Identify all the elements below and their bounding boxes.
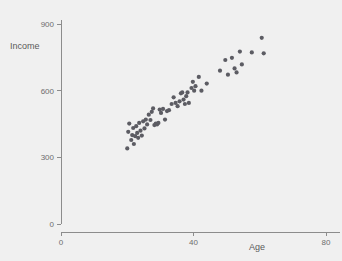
plot-canvas: 0300600900 04080 Income Age xyxy=(0,0,342,261)
x-axis-title: Age xyxy=(249,242,265,252)
data-point xyxy=(176,104,180,108)
data-point xyxy=(151,106,155,110)
data-point xyxy=(232,66,236,70)
x-tick-label: 80 xyxy=(322,238,331,247)
data-point xyxy=(125,146,129,150)
data-point xyxy=(126,130,130,134)
data-point xyxy=(226,73,230,77)
data-point xyxy=(127,121,131,125)
x-tick-label: 0 xyxy=(59,238,64,247)
y-axis-title: Income xyxy=(10,41,40,51)
x-axis: 04080 xyxy=(59,232,340,247)
data-point xyxy=(170,102,174,106)
data-point xyxy=(260,36,264,40)
data-point xyxy=(161,107,165,111)
data-point xyxy=(172,95,176,99)
y-tick-label: 300 xyxy=(41,153,55,162)
data-point xyxy=(129,138,133,142)
data-points-layer xyxy=(125,36,266,151)
data-point xyxy=(156,121,160,125)
data-point xyxy=(132,142,136,146)
data-point xyxy=(148,118,152,122)
data-point xyxy=(199,89,203,93)
data-point xyxy=(262,51,266,55)
data-point xyxy=(183,102,187,106)
y-tick-label: 900 xyxy=(41,20,55,29)
x-tick-label: 40 xyxy=(189,238,198,247)
data-point xyxy=(193,84,197,88)
data-point xyxy=(187,101,191,105)
data-point xyxy=(140,133,144,137)
data-point xyxy=(137,121,141,125)
y-axis: 0300600900 xyxy=(41,20,61,229)
data-point xyxy=(163,117,167,121)
data-point xyxy=(191,80,195,84)
data-point xyxy=(192,89,196,93)
y-tick-label: 0 xyxy=(50,220,55,229)
data-point xyxy=(142,126,146,130)
data-point xyxy=(138,129,142,133)
data-point xyxy=(177,99,181,103)
data-point xyxy=(167,108,171,112)
data-point xyxy=(145,122,149,126)
data-point xyxy=(180,90,184,94)
data-point xyxy=(185,90,189,94)
scatter-plot-figure: 0300600900 04080 Income Age xyxy=(0,0,342,261)
data-point xyxy=(238,49,242,53)
data-point xyxy=(230,56,234,60)
data-point xyxy=(234,70,238,74)
y-tick-label: 600 xyxy=(41,87,55,96)
data-point xyxy=(197,75,201,79)
data-point xyxy=(205,81,209,85)
data-point xyxy=(223,58,227,62)
data-point xyxy=(159,111,163,115)
data-point xyxy=(218,69,222,73)
data-point xyxy=(134,124,138,128)
data-point xyxy=(144,117,148,121)
data-point xyxy=(184,94,188,98)
data-point xyxy=(136,136,140,140)
data-point xyxy=(240,62,244,66)
data-point xyxy=(250,50,254,54)
data-point xyxy=(181,97,185,101)
